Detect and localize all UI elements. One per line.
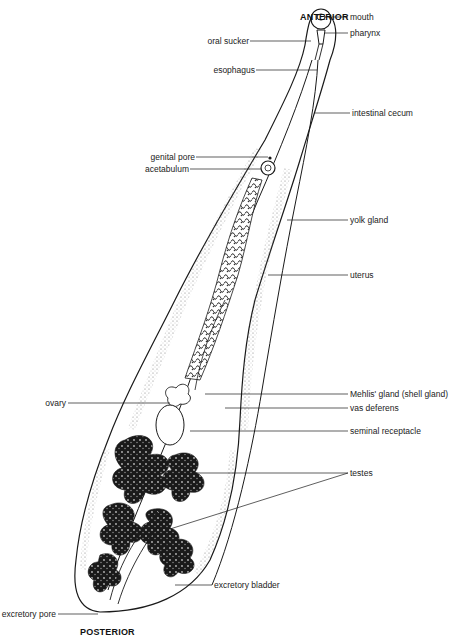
acetabulum bbox=[261, 161, 275, 175]
label-excretory-pore: excretory pore bbox=[2, 609, 56, 619]
label-oral-sucker: oral sucker bbox=[207, 36, 249, 46]
posterior-label: POSTERIOR bbox=[80, 627, 135, 637]
fluke-drawing bbox=[0, 0, 474, 643]
label-seminal-receptacle: seminal receptacle bbox=[350, 426, 421, 436]
label-mouth: mouth bbox=[350, 12, 374, 22]
seminal-receptacle bbox=[156, 405, 184, 445]
fluke-diagram: ANTERIOR POSTERIOR oral sucker mouth pha… bbox=[0, 0, 474, 643]
label-mehlis-gland: Mehlis' gland (shell gland) bbox=[350, 389, 448, 399]
label-acetabulum: acetabulum bbox=[145, 164, 189, 174]
genital-pore bbox=[268, 156, 271, 159]
label-excretory-bladder: excretory bladder bbox=[214, 580, 280, 590]
label-esophagus: esophagus bbox=[213, 65, 255, 75]
label-yolk-gland: yolk gland bbox=[350, 215, 388, 225]
label-genital-pore: genital pore bbox=[151, 152, 195, 162]
label-vas-deferens: vas deferens bbox=[350, 403, 399, 413]
label-ovary: ovary bbox=[45, 398, 66, 408]
label-intestinal-cecum: intestinal cecum bbox=[352, 108, 413, 118]
pharynx bbox=[317, 30, 325, 44]
label-pharynx: pharynx bbox=[350, 28, 380, 38]
label-uterus: uterus bbox=[350, 270, 374, 280]
anterior-label: ANTERIOR bbox=[300, 12, 349, 22]
label-testes: testes bbox=[350, 468, 373, 478]
